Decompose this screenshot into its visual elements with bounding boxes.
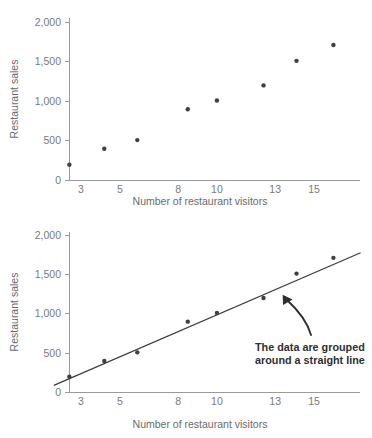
data-point (294, 59, 298, 63)
y-tick-label: 2,000 (35, 16, 61, 28)
data-point (331, 43, 335, 47)
figure-container: 05001,0001,5002,000 358101315 Restaurant… (0, 0, 372, 438)
x-tick-label: 13 (269, 183, 281, 195)
y-tick-group-bottom: 05001,0001,5002,000 (35, 229, 70, 399)
data-point (102, 359, 106, 363)
x-tick-label: 8 (175, 395, 181, 407)
y-axis-title-top: Restaurant sales (8, 60, 20, 139)
scatter-plot-without-trend-line: 05001,0001,5002,000 358101315 Restaurant… (0, 0, 372, 212)
y-axis-title-bottom: Restaurant sales (8, 273, 20, 352)
data-point (102, 147, 106, 151)
x-tick-label: 3 (78, 183, 84, 195)
chart-canvas-top: 05001,0001,5002,000 358101315 Restaurant… (0, 0, 372, 212)
y-tick-label: 500 (43, 134, 61, 146)
x-tick-label: 10 (211, 395, 223, 407)
annotation-line-1: The data are grouped (255, 341, 365, 353)
y-tick-label: 500 (43, 347, 61, 359)
x-tick-label: 5 (117, 395, 123, 407)
x-tick-label: 15 (308, 395, 320, 407)
x-tick-label: 15 (308, 183, 320, 195)
x-tick-label: 10 (211, 183, 223, 195)
curved-arrow-up-left-icon (282, 294, 311, 335)
y-tick-label: 1,000 (35, 95, 61, 107)
annotation-line-2: around a straight line (255, 354, 365, 366)
data-point (215, 98, 219, 102)
x-axis-title-bottom: Number of restaurant visitors (133, 418, 268, 430)
y-tick-group-top: 05001,0001,5002,000 (35, 16, 70, 187)
y-tick-label: 2,000 (35, 229, 61, 241)
data-point (261, 296, 265, 300)
x-tick-label: 3 (78, 395, 84, 407)
y-tick-label: 1,500 (35, 268, 61, 280)
data-point (186, 107, 190, 111)
data-point (186, 319, 190, 323)
data-point (67, 162, 71, 166)
y-tick-label: 0 (55, 386, 61, 398)
y-tick-label: 0 (55, 174, 61, 186)
x-tick-label: 5 (117, 183, 123, 195)
data-point-group-top (67, 43, 335, 167)
data-point (215, 311, 219, 315)
data-point (67, 375, 71, 379)
data-point (261, 83, 265, 87)
x-tick-label: 8 (175, 183, 181, 195)
data-point (294, 271, 298, 275)
data-point (135, 350, 139, 354)
x-tick-group-top: 358101315 (78, 183, 320, 195)
data-point (331, 256, 335, 260)
data-point (135, 138, 139, 142)
chart-canvas-bottom: 05001,0001,5002,000 358101315 The data a… (0, 212, 372, 438)
x-tick-label: 13 (269, 395, 281, 407)
x-axis-title-top: Number of restaurant visitors (133, 195, 268, 207)
y-tick-label: 1,000 (35, 307, 61, 319)
scatter-plot-with-trend-line: 05001,0001,5002,000 358101315 The data a… (0, 212, 372, 438)
arrow-curve-path (287, 300, 311, 335)
y-tick-label: 1,500 (35, 55, 61, 67)
x-tick-group-bottom: 358101315 (78, 395, 320, 407)
